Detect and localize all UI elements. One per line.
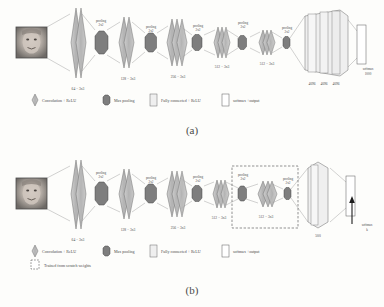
pool-label-4-line2-b: 2x2 (241, 177, 246, 181)
legend-a: Convolution + ReLU Max pooling Fully con… (32, 94, 260, 106)
softmax-label-line1-a: softmax (363, 67, 374, 71)
legend-fc-icon-a (150, 94, 157, 106)
panel-b-diagram: 64 − 3x3 pooling 2x2 128 − 3x3 pool (0, 150, 384, 270)
conv-label-256-b: 256 − 3x3 (171, 226, 186, 230)
conv-label-128-b: 128 − 3x3 (121, 228, 136, 232)
legend-conv-label-a: Convolution + ReLU (42, 98, 76, 103)
conv-block-256-b: 256 − 3x3 (167, 171, 187, 230)
fc-stack-a: 4096 4096 4096 (305, 10, 348, 86)
pool-label-4-line2-a: 2x2 (241, 25, 246, 29)
fc-stack-b: 500 (308, 162, 328, 238)
conv-label-512-1-a: 512 − 3x3 (215, 65, 230, 69)
fc-label-2-a: 4096 (320, 82, 327, 86)
fc-label-500-b: 500 (315, 234, 321, 238)
conv-block-512-1-b: 512 − 3x3 (212, 180, 229, 220)
legend-softmax-label-b: softmax +output (233, 249, 260, 254)
legend-softmax-label-a: softmax +output (233, 98, 260, 103)
panel-b: 64 − 3x3 pooling 2x2 128 − 3x3 pool (0, 150, 384, 307)
conv-block-128-b: 128 − 3x3 (119, 169, 136, 232)
panel-a-svg: 64 − 3x3 pooling 2x2 128 − 3x3 p (0, 0, 384, 112)
pool-block-3-b: pooling 2x2 (192, 175, 203, 202)
legend-pool-label-a: Max pooling (114, 98, 135, 103)
panel-b-svg: 64 − 3x3 pooling 2x2 128 − 3x3 pool (0, 150, 384, 270)
legend-pool-icon-a (103, 95, 110, 105)
softmax-output-b: softmax k (346, 176, 373, 232)
conv-label-512-2-b: 512 − 3x3 (259, 215, 274, 219)
legend-pool-icon-b (103, 246, 110, 256)
input-image-a (16, 27, 47, 58)
conv-label-256-a: 256 − 3x3 (171, 75, 186, 79)
legend-conv-icon-a (32, 94, 38, 106)
pool-label-3-line2-b: 2x2 (196, 179, 201, 183)
pool-block-1-a: pooling 2x2 (95, 19, 108, 54)
softmax-label-line2-a: 1000 (365, 72, 372, 76)
pool-label-2-line2-a: 2x2 (149, 29, 154, 33)
legend-b: Convolution + ReLU Max pooling Fully con… (31, 245, 260, 269)
caption-a: (a) (0, 124, 384, 136)
legend-scratch-label-b: Trained from scratch weights (44, 263, 91, 268)
pool-label-1-line2-b: 2x2 (99, 175, 104, 179)
panel-a: 64 − 3x3 pooling 2x2 128 − 3x3 p (0, 0, 384, 150)
conv-label-512-1-b: 512 − 3x3 (212, 216, 227, 220)
conv-block-512-2-a: 512 − 3x3 (259, 30, 275, 66)
legend-fc-label-b: Fully connected + ReLU (161, 249, 201, 254)
legend-scratch-icon-b (31, 260, 39, 269)
panel-a-diagram: 64 − 3x3 pooling 2x2 128 − 3x3 p (0, 0, 384, 112)
pool-label-5-line2-b: 2x2 (286, 181, 291, 185)
softmax-label-line1-b: softmax (362, 223, 373, 227)
legend-conv-label-b: Convolution + ReLU (42, 249, 76, 254)
conv-block-512-1-a: 512 − 3x3 (214, 27, 230, 69)
legend-conv-icon-b (32, 245, 38, 257)
pool-block-3-a: pooling 2x2 (192, 24, 203, 51)
softmax-label-line2-b: k (366, 228, 368, 232)
legend-pool-label-b: Max pooling (114, 249, 135, 254)
conv-label-64-a: 64 − 3x3 (72, 87, 85, 91)
pool-block-5-a: pooling 2x2 (282, 26, 292, 49)
input-image-b (16, 178, 47, 209)
pool-label-5-line2-a: 2x2 (285, 30, 290, 34)
pool-label-2-line2-b: 2x2 (149, 180, 154, 184)
figure-root: 64 − 3x3 pooling 2x2 128 − 3x3 p (0, 0, 384, 307)
fc-label-1-a: 4096 (308, 82, 315, 86)
softmax-output-a: softmax 1000 (357, 25, 374, 76)
conv-block-256-a: 256 − 3x3 (167, 19, 187, 79)
conv-label-128-a: 128 − 3x3 (121, 77, 136, 81)
pool-label-3-line2-a: 2x2 (196, 28, 201, 32)
conv-label-512-2-a: 512 − 3x3 (260, 62, 275, 66)
pool-block-4-b: pooling 2x2 (238, 173, 248, 201)
pool-label-1-line2-a: 2x2 (99, 23, 104, 27)
pool-block-4-a: pooling 2x2 (238, 21, 248, 50)
conv-label-64-b: 64 − 3x3 (72, 238, 85, 242)
caption-b: (b) (0, 284, 384, 296)
pool-block-2-a: pooling 2x2 (145, 25, 157, 52)
conv-block-64-b: 64 − 3x3 (71, 160, 86, 242)
fc-label-3-a: 4096 (332, 82, 339, 86)
legend-softmax-icon-a (222, 94, 229, 106)
pool-block-1-b: pooling 2x2 (95, 171, 108, 205)
conv-block-64-a: 64 − 3x3 (71, 8, 86, 91)
legend-fc-icon-b (150, 245, 157, 257)
pool-block-2-b: pooling 2x2 (145, 176, 157, 203)
conv-block-512-2-b: 512 − 3x3 (258, 181, 277, 219)
legend-softmax-icon-b (222, 245, 229, 257)
conv-block-128-a: 128 − 3x3 (119, 17, 136, 81)
legend-fc-label-a: Fully connected + ReLU (161, 98, 201, 103)
